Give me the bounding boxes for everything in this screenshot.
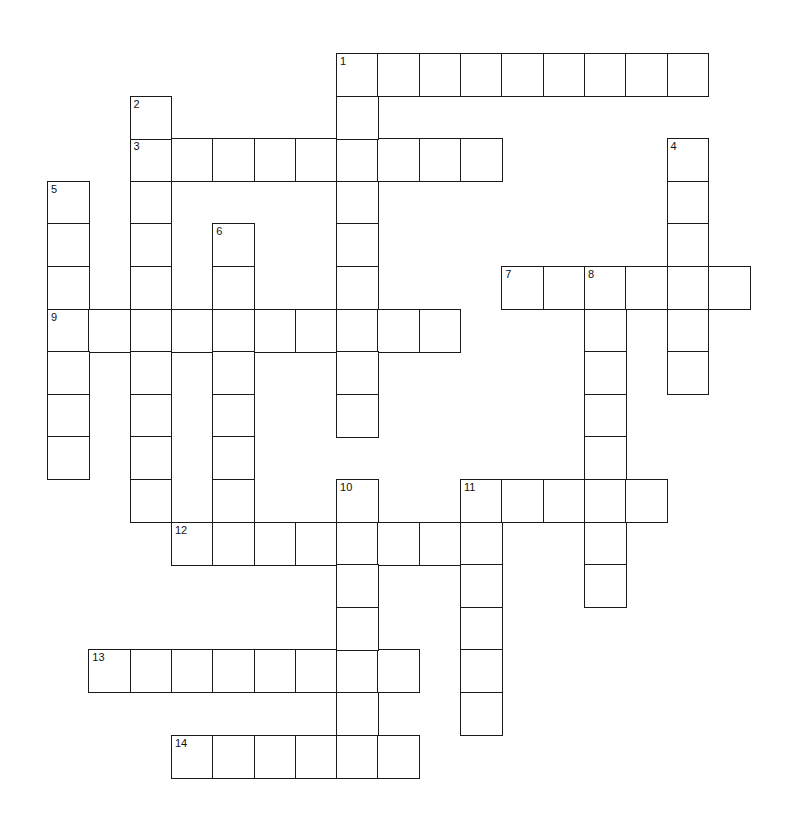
grid-cell[interactable]	[667, 309, 710, 353]
grid-cell[interactable]	[130, 223, 173, 267]
grid-cell[interactable]	[336, 735, 379, 779]
grid-cell[interactable]	[460, 649, 503, 693]
grid-cell[interactable]	[254, 309, 297, 353]
grid-cell[interactable]	[130, 394, 173, 438]
grid-cell[interactable]	[336, 181, 379, 225]
grid-cell[interactable]	[295, 309, 338, 353]
grid-cell[interactable]	[130, 309, 173, 353]
grid-cell[interactable]	[171, 138, 214, 182]
grid-cell[interactable]	[377, 735, 420, 779]
grid-cell[interactable]	[336, 607, 379, 651]
grid-cell[interactable]	[419, 309, 462, 353]
grid-cell[interactable]	[88, 309, 131, 353]
grid-cell[interactable]	[336, 266, 379, 310]
grid-cell[interactable]	[295, 522, 338, 566]
grid-cell[interactable]	[625, 479, 668, 523]
grid-cell[interactable]	[377, 522, 420, 566]
grid-cell[interactable]	[336, 394, 379, 438]
grid-cell[interactable]	[47, 394, 90, 438]
grid-cell[interactable]	[212, 394, 255, 438]
grid-cell[interactable]	[584, 309, 627, 353]
grid-cell[interactable]	[667, 351, 710, 395]
grid-cell[interactable]	[584, 351, 627, 395]
grid-cell[interactable]	[419, 522, 462, 566]
grid-cell[interactable]	[212, 479, 255, 523]
grid-cell[interactable]	[543, 53, 586, 97]
grid-cell[interactable]	[212, 309, 255, 353]
grid-cell[interactable]	[584, 436, 627, 480]
grid-cell[interactable]	[336, 649, 379, 693]
grid-cell[interactable]	[584, 394, 627, 438]
grid-cell[interactable]	[460, 138, 503, 182]
grid-cell[interactable]	[130, 436, 173, 480]
grid-cell[interactable]: 4	[667, 138, 710, 182]
grid-cell[interactable]	[212, 266, 255, 310]
grid-cell[interactable]	[336, 564, 379, 608]
grid-cell[interactable]	[295, 649, 338, 693]
grid-cell[interactable]: 3	[130, 138, 173, 182]
grid-cell[interactable]	[377, 53, 420, 97]
grid-cell[interactable]	[625, 53, 668, 97]
grid-cell[interactable]	[667, 181, 710, 225]
grid-cell[interactable]	[419, 53, 462, 97]
grid-cell[interactable]: 7	[501, 266, 544, 310]
grid-cell[interactable]	[336, 223, 379, 267]
grid-cell[interactable]	[377, 649, 420, 693]
grid-cell[interactable]	[584, 564, 627, 608]
grid-cell[interactable]	[47, 351, 90, 395]
grid-cell[interactable]: 1	[336, 53, 379, 97]
grid-cell[interactable]	[171, 309, 214, 353]
grid-cell[interactable]	[130, 181, 173, 225]
grid-cell[interactable]	[419, 138, 462, 182]
grid-cell[interactable]	[254, 649, 297, 693]
grid-cell[interactable]	[667, 266, 710, 310]
grid-cell[interactable]	[47, 436, 90, 480]
grid-cell[interactable]	[171, 649, 214, 693]
grid-cell[interactable]	[336, 522, 379, 566]
grid-cell[interactable]: 9	[47, 309, 90, 353]
grid-cell[interactable]: 5	[47, 181, 90, 225]
grid-cell[interactable]	[708, 266, 751, 310]
grid-cell[interactable]	[254, 138, 297, 182]
grid-cell[interactable]	[47, 266, 90, 310]
grid-cell[interactable]: 12	[171, 522, 214, 566]
grid-cell[interactable]: 6	[212, 223, 255, 267]
grid-cell[interactable]	[336, 692, 379, 736]
grid-cell[interactable]	[47, 223, 90, 267]
grid-cell[interactable]	[584, 522, 627, 566]
grid-cell[interactable]	[130, 351, 173, 395]
grid-cell[interactable]	[543, 266, 586, 310]
grid-cell[interactable]	[295, 735, 338, 779]
grid-cell[interactable]	[460, 522, 503, 566]
grid-cell[interactable]	[212, 735, 255, 779]
grid-cell[interactable]	[336, 138, 379, 182]
grid-cell[interactable]	[130, 479, 173, 523]
grid-cell[interactable]	[130, 649, 173, 693]
grid-cell[interactable]	[667, 53, 710, 97]
grid-cell[interactable]	[543, 479, 586, 523]
grid-cell[interactable]	[584, 479, 627, 523]
grid-cell[interactable]	[254, 522, 297, 566]
grid-cell[interactable]	[254, 735, 297, 779]
grid-cell[interactable]	[336, 96, 379, 140]
grid-cell[interactable]	[584, 53, 627, 97]
grid-cell[interactable]	[212, 138, 255, 182]
grid-cell[interactable]	[377, 138, 420, 182]
grid-cell[interactable]: 11	[460, 479, 503, 523]
grid-cell[interactable]	[501, 53, 544, 97]
grid-cell[interactable]	[212, 351, 255, 395]
grid-cell[interactable]	[460, 692, 503, 736]
grid-cell[interactable]: 8	[584, 266, 627, 310]
grid-cell[interactable]: 10	[336, 479, 379, 523]
grid-cell[interactable]	[212, 522, 255, 566]
grid-cell[interactable]	[212, 649, 255, 693]
grid-cell[interactable]	[460, 53, 503, 97]
grid-cell[interactable]	[460, 564, 503, 608]
grid-cell[interactable]	[130, 266, 173, 310]
grid-cell[interactable]	[377, 309, 420, 353]
grid-cell[interactable]	[212, 436, 255, 480]
grid-cell[interactable]: 14	[171, 735, 214, 779]
grid-cell[interactable]	[295, 138, 338, 182]
grid-cell[interactable]	[336, 309, 379, 353]
grid-cell[interactable]	[336, 351, 379, 395]
